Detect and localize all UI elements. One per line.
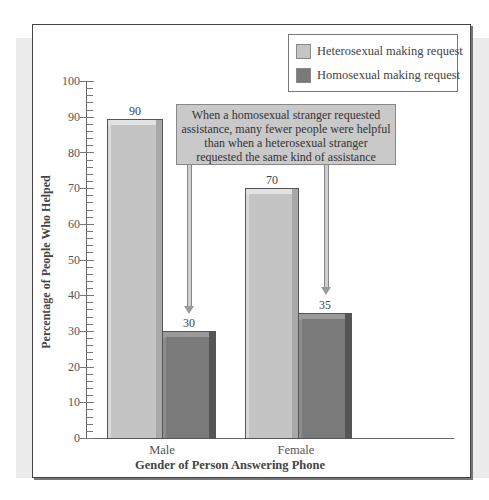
legend-label: Heterosexual making request [317, 44, 463, 59]
bar-value-label: 35 [305, 298, 345, 313]
y-major-tick [80, 117, 94, 118]
y-minor-tick [86, 181, 93, 182]
callout-arrow-male [187, 165, 192, 307]
y-minor-tick [86, 409, 93, 410]
bar-value-label: 30 [169, 316, 209, 331]
y-minor-tick [86, 352, 93, 353]
y-minor-tick [86, 102, 93, 103]
y-minor-tick [86, 110, 93, 111]
callout-line: requested the same kind of assistance [177, 150, 395, 164]
legend-swatch-homosexual [296, 68, 311, 83]
y-major-tick [80, 224, 94, 225]
y-minor-tick [86, 138, 93, 139]
bar-male-heterosexual [107, 119, 163, 439]
y-minor-tick [86, 231, 93, 232]
y-minor-tick [86, 417, 93, 418]
y-minor-tick [86, 174, 93, 175]
y-minor-tick [86, 324, 93, 325]
y-tick-label: 50 [50, 253, 80, 268]
arrow-down-icon [184, 306, 194, 314]
y-major-tick [80, 402, 94, 403]
y-minor-tick [86, 302, 93, 303]
y-minor-tick [86, 309, 93, 310]
y-tick-label: 100 [50, 74, 80, 89]
y-minor-tick [86, 95, 93, 96]
y-tick-label: 70 [50, 181, 80, 196]
callout-arrow-female [324, 165, 329, 288]
y-minor-tick [86, 374, 93, 375]
y-major-tick [80, 152, 94, 153]
y-minor-tick [86, 245, 93, 246]
y-tick-label: 30 [50, 324, 80, 339]
y-major-tick [80, 438, 94, 439]
y-minor-tick [86, 381, 93, 382]
y-tick-label: 80 [50, 146, 80, 161]
y-minor-tick [86, 267, 93, 268]
bar-value-label: 90 [115, 104, 155, 119]
callout-line: assistance, many fewer people were helpf… [177, 122, 395, 136]
callout-line: When a homosexual stranger requested [177, 108, 395, 122]
y-major-tick [80, 81, 94, 82]
y-minor-tick [86, 195, 93, 196]
legend-swatch-heterosexual [296, 44, 311, 59]
y-minor-tick [86, 202, 93, 203]
y-minor-tick [86, 160, 93, 161]
y-minor-tick [86, 338, 93, 339]
y-minor-tick [86, 210, 93, 211]
y-tick-label: 60 [50, 217, 80, 232]
y-minor-tick [86, 124, 93, 125]
y-major-tick [80, 260, 94, 261]
y-minor-tick [86, 288, 93, 289]
y-minor-tick [86, 281, 93, 282]
y-tick-label: 90 [50, 110, 80, 125]
y-minor-tick [86, 274, 93, 275]
y-minor-tick [86, 145, 93, 146]
y-major-tick [80, 367, 94, 368]
category-label-male: Male [122, 443, 202, 458]
legend-item-heterosexual: Heterosexual making request [296, 41, 463, 61]
y-minor-tick [86, 345, 93, 346]
legend: Heterosexual making request Homosexual m… [288, 34, 458, 92]
callout-line: than when a heterosexual stranger [177, 136, 395, 150]
bar-female-heterosexual [245, 188, 299, 439]
y-minor-tick [86, 252, 93, 253]
y-minor-tick [86, 395, 93, 396]
y-minor-tick [86, 217, 93, 218]
y-minor-tick [86, 388, 93, 389]
y-minor-tick [86, 131, 93, 132]
y-minor-tick [86, 359, 93, 360]
y-minor-tick [86, 167, 93, 168]
bar-male-homosexual [162, 331, 216, 439]
legend-label: Homosexual making request [317, 68, 460, 83]
bar-female-homosexual [298, 313, 352, 439]
arrow-down-icon [321, 287, 331, 295]
y-tick-label: 10 [50, 395, 80, 410]
legend-item-homosexual: Homosexual making request [296, 65, 460, 85]
bar-value-label: 70 [252, 173, 292, 188]
x-axis-title: Gender of Person Answering Phone [135, 458, 325, 473]
y-major-tick [80, 188, 94, 189]
y-tick-label: 20 [50, 360, 80, 375]
y-minor-tick [86, 424, 93, 425]
y-minor-tick [86, 431, 93, 432]
y-minor-tick [86, 238, 93, 239]
category-label-female: Female [256, 443, 336, 458]
y-tick-label: 40 [50, 288, 80, 303]
y-minor-tick [86, 317, 93, 318]
annotation-callout: When a homosexual stranger requested ass… [176, 104, 396, 165]
y-minor-tick [86, 88, 93, 89]
y-major-tick [80, 295, 94, 296]
y-major-tick [80, 331, 94, 332]
y-tick-label: 0 [50, 431, 80, 446]
